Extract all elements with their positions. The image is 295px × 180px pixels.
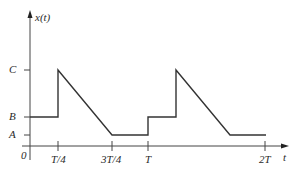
tick-label-3t-quarter: 3T/4 [101,154,121,165]
y-axis-arrow-icon [28,10,33,18]
level-label-b: B [9,111,16,122]
origin-label: 0 [21,150,27,161]
y-axis-label: x(t) [35,12,50,23]
tick-label-2t: 2T [259,154,271,165]
level-label-a: A [9,129,16,140]
tick-label-t: T [145,154,151,165]
x-axis-label: t [283,152,286,163]
x-axis [22,144,289,149]
y-axis [28,10,33,160]
signal-waveform-line [30,70,266,135]
x-axis-arrow-icon [281,144,289,149]
y-ticks [24,70,30,135]
level-label-c: C [9,64,16,75]
tick-label-t-quarter: T/4 [51,154,66,165]
